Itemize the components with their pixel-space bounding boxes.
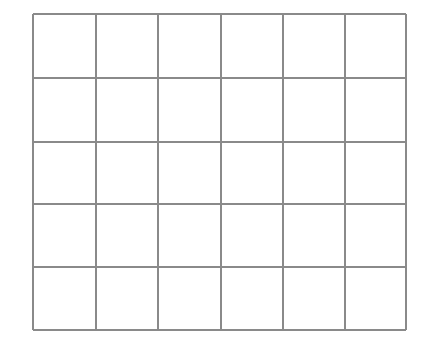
grid-cell bbox=[158, 267, 221, 330]
grid-cell bbox=[345, 267, 406, 330]
grid-cell bbox=[158, 78, 221, 142]
grid-cell bbox=[221, 142, 283, 204]
grid-cell bbox=[33, 78, 96, 142]
grid-cell bbox=[221, 204, 283, 267]
grid-cell bbox=[158, 142, 221, 204]
grid-cell bbox=[96, 78, 158, 142]
grid-cell bbox=[283, 267, 345, 330]
grid-cell bbox=[96, 267, 158, 330]
grid-cell bbox=[96, 142, 158, 204]
grid-cell bbox=[221, 267, 283, 330]
grid-cell bbox=[345, 204, 406, 267]
grid-cell bbox=[33, 142, 96, 204]
grid-diagram bbox=[0, 0, 428, 346]
grid-cell bbox=[158, 204, 221, 267]
grid-cell bbox=[283, 14, 345, 78]
grid-cell bbox=[283, 142, 345, 204]
grid-cell bbox=[283, 204, 345, 267]
grid-cell bbox=[158, 14, 221, 78]
grid-cell bbox=[221, 78, 283, 142]
grid-cell bbox=[345, 14, 406, 78]
grid-cell bbox=[96, 204, 158, 267]
grid-cell bbox=[221, 14, 283, 78]
grid-cell bbox=[33, 14, 96, 78]
grid-cell bbox=[345, 142, 406, 204]
grid-cell bbox=[33, 267, 96, 330]
grid-cell bbox=[96, 14, 158, 78]
grid-cell bbox=[33, 204, 96, 267]
grid-cell bbox=[345, 78, 406, 142]
grid-cell bbox=[283, 78, 345, 142]
